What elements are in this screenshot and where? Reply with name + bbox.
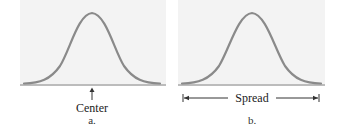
center-arrow-icon xyxy=(90,88,95,101)
panel-b-curve xyxy=(178,13,325,85)
distribution-diagram xyxy=(0,0,340,129)
panel-a-sublabel: a. xyxy=(77,115,107,126)
spread-label: Spread xyxy=(226,92,278,104)
panel-a-curve xyxy=(20,13,166,85)
panel-b-sublabel: b. xyxy=(237,115,267,126)
center-label: Center xyxy=(62,102,122,114)
